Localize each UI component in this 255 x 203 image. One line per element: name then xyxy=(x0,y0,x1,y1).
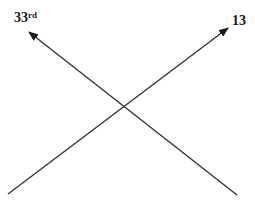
left-arrow-label: 33rd xyxy=(14,11,37,25)
crossing-arrows-diagram xyxy=(0,0,255,203)
left-arrow-label-number: 33 xyxy=(14,10,28,25)
right-up-arrow xyxy=(8,28,228,194)
left-up-arrow xyxy=(29,32,237,195)
left-arrow-label-superscript: rd xyxy=(28,10,37,20)
right-arrow-label: 13 xyxy=(232,14,246,28)
